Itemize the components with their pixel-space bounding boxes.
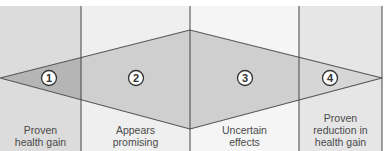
zone-1-label: Proven health gain: [0, 124, 81, 148]
zone-2-number-badge: 2: [129, 71, 144, 86]
zone-3-label-line2: effects: [190, 136, 299, 148]
health-gain-diamond-diagram: 1 2 3 4 Proven health gain Appears promi…: [0, 0, 384, 151]
zone-4-number: 4: [327, 72, 334, 84]
zone-1-label-line2: health gain: [0, 136, 81, 148]
zone-1-number: 1: [46, 72, 52, 84]
zone-3-label: Uncertain effects: [190, 124, 299, 148]
zone-2-label: Appears promising: [81, 124, 190, 148]
zone-4-label-line3: health gain: [299, 136, 382, 148]
zone-1-label-line1: Proven: [0, 124, 81, 136]
zone-4-label-line1: Proven: [299, 112, 382, 124]
zone-2-label-line2: promising: [81, 136, 190, 148]
zone-1-number-badge: 1: [42, 71, 57, 86]
zone-4-number-badge: 4: [323, 71, 338, 86]
zone-3-label-line1: Uncertain: [190, 124, 299, 136]
zone-3-number-badge: 3: [238, 71, 253, 86]
zone-4-label-line2: reduction in: [299, 124, 382, 136]
zone-2-number: 2: [133, 72, 139, 84]
zone-4-label: Proven reduction in health gain: [299, 112, 382, 148]
zone-2-label-line1: Appears: [81, 124, 190, 136]
zone-3-number: 3: [242, 72, 248, 84]
